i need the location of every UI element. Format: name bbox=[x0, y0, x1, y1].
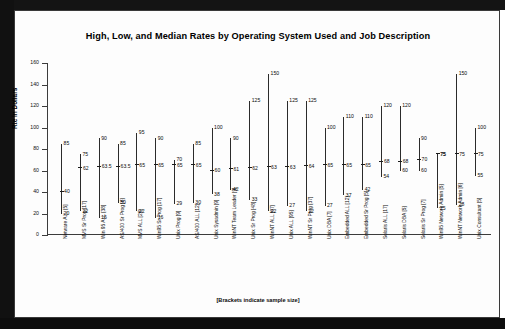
median-marker bbox=[229, 168, 233, 169]
median-value-label: 65 bbox=[328, 163, 334, 168]
high-value-label: 85 bbox=[64, 141, 70, 146]
median-value-label: 65 bbox=[196, 163, 202, 168]
high-value-label: 90 bbox=[101, 136, 107, 141]
x-axis-category-label: Unix Sysadmin [9] bbox=[214, 200, 219, 239]
footnote: [Brackets indicate sample size] bbox=[15, 297, 501, 303]
low-value-label: 38 bbox=[214, 192, 220, 197]
x-axis-category-label: WinNT Sr Prog [37] bbox=[308, 197, 313, 239]
median-value-label: 64 bbox=[309, 164, 315, 169]
high-value-label: 110 bbox=[365, 114, 373, 119]
median-value-label: 65 bbox=[177, 163, 183, 168]
median-marker bbox=[135, 164, 139, 165]
median-marker bbox=[60, 191, 64, 192]
range-bar bbox=[61, 144, 62, 214]
high-value-label: 100 bbox=[327, 125, 336, 130]
scan-edge-top bbox=[0, 0, 505, 10]
y-tick-label: 140 bbox=[30, 81, 39, 87]
median-marker bbox=[267, 166, 271, 167]
y-tick-label: 80 bbox=[33, 145, 39, 151]
median-marker bbox=[191, 164, 195, 165]
high-value-label: 85 bbox=[195, 141, 201, 146]
scan-edge-bottom bbox=[0, 318, 505, 329]
high-value-label: 100 bbox=[214, 125, 223, 130]
median-marker bbox=[455, 153, 459, 154]
x-axis-category-label: Unix ALL [95] bbox=[289, 210, 294, 239]
median-marker bbox=[304, 165, 308, 166]
median-value-label: 62 bbox=[252, 166, 258, 171]
x-axis-category-label: Netware ALL [5] bbox=[63, 204, 68, 239]
median-marker bbox=[78, 167, 82, 168]
range-bar bbox=[419, 138, 420, 170]
y-tick-label: 60 bbox=[33, 167, 39, 173]
x-axis-category-label: Unix Sr Prog [48] bbox=[251, 202, 256, 239]
x-axis-category-label: Unix DBA [7] bbox=[327, 211, 332, 239]
x-axis-category-label: Unix Prog [9] bbox=[176, 211, 181, 239]
high-value-label: 150 bbox=[271, 71, 280, 76]
low-value-label: 60 bbox=[421, 168, 427, 173]
low-value-label: 27 bbox=[289, 203, 295, 208]
range-bar bbox=[230, 138, 231, 190]
range-bar bbox=[475, 128, 476, 176]
x-axis-category-label: Win 95 ALL [38] bbox=[101, 205, 106, 239]
low-value-label: 54 bbox=[383, 174, 389, 179]
low-value-label: 55 bbox=[478, 173, 484, 178]
median-value-label: 40 bbox=[64, 189, 70, 194]
range-bar bbox=[118, 144, 119, 203]
y-tick-label: 0 bbox=[36, 231, 39, 237]
low-value-label: 29 bbox=[176, 201, 182, 206]
range-bar bbox=[174, 160, 175, 204]
y-tick: 0 bbox=[42, 235, 48, 236]
x-axis-category-label: Solaris DBA [5] bbox=[402, 206, 407, 239]
high-value-label: 150 bbox=[459, 71, 468, 76]
high-value-label: 90 bbox=[158, 136, 164, 141]
median-value-label: 65 bbox=[139, 163, 145, 168]
median-value-label: 61 bbox=[233, 167, 239, 172]
median-value-label: 75 bbox=[459, 152, 465, 157]
range-bar bbox=[249, 101, 250, 200]
x-axis-category-label: Solaris ALL [17] bbox=[383, 205, 388, 239]
median-value-label: 70 bbox=[422, 157, 428, 162]
median-marker bbox=[210, 170, 214, 171]
chart-frame: High, Low, and Median Rates by Operating… bbox=[14, 10, 500, 318]
x-axis-category-label: WinNT ALL [67] bbox=[270, 205, 275, 239]
median-value-label: 65 bbox=[346, 163, 352, 168]
range-bar bbox=[136, 133, 137, 211]
high-value-label: 90 bbox=[421, 136, 427, 141]
median-marker bbox=[398, 161, 402, 162]
x-axis-category-label: Embedded ALL [12] bbox=[345, 196, 350, 239]
x-axis-category-label: WinNT Network Admin [6] bbox=[458, 183, 463, 239]
range-bar bbox=[193, 144, 194, 203]
median-value-label: 68 bbox=[403, 159, 409, 164]
y-tick-label: 160 bbox=[30, 59, 39, 65]
median-value-label: 65 bbox=[158, 163, 164, 168]
range-bar bbox=[306, 101, 307, 212]
x-axis-category-label: AS/400 ALL [12] bbox=[195, 204, 200, 239]
high-value-label: 120 bbox=[383, 103, 392, 108]
chart-title: High, Low, and Median Rates by Operating… bbox=[15, 31, 501, 41]
median-marker bbox=[116, 166, 120, 167]
x-axis-category-label: AS/400 Sr Prog [6] bbox=[120, 198, 125, 239]
x-axis-category-label: MVS ALL [26] bbox=[138, 209, 143, 239]
median-marker bbox=[248, 167, 252, 168]
high-value-label: 110 bbox=[346, 114, 354, 119]
median-marker bbox=[417, 159, 421, 160]
y-tick-label: 120 bbox=[30, 102, 39, 108]
median-value-label: 68 bbox=[384, 159, 390, 164]
range-bar bbox=[325, 128, 326, 206]
range-bar bbox=[362, 117, 363, 190]
range-bar bbox=[80, 154, 81, 211]
median-value-label: 65 bbox=[365, 163, 371, 168]
high-value-label: 100 bbox=[478, 125, 487, 130]
x-axis-category-label: MVS Sr Prog [17] bbox=[82, 201, 87, 239]
high-value-label: 95 bbox=[139, 130, 145, 135]
y-tick-mark bbox=[42, 235, 48, 236]
median-marker bbox=[285, 166, 289, 167]
range-bar bbox=[212, 128, 213, 195]
low-value-label: 27 bbox=[327, 203, 333, 208]
high-value-label: 125 bbox=[308, 98, 317, 103]
median-marker bbox=[97, 166, 101, 167]
median-value-label: 63 bbox=[271, 165, 277, 170]
x-axis-category-label: Solaris Sr Prog [7] bbox=[421, 199, 426, 239]
high-value-label: 75 bbox=[82, 152, 88, 157]
high-value-label: 85 bbox=[120, 141, 126, 146]
